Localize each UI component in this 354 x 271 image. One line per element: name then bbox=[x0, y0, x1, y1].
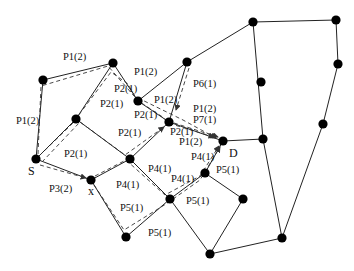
path-label: P6(1) bbox=[193, 78, 217, 90]
path-label: P4(1) bbox=[116, 179, 140, 191]
node bbox=[277, 233, 286, 242]
node bbox=[218, 136, 227, 145]
edge bbox=[210, 199, 243, 254]
path-label: P2(1) bbox=[118, 127, 142, 139]
route-path bbox=[176, 68, 189, 110]
node bbox=[318, 119, 327, 128]
path-label: P1(2) bbox=[179, 136, 203, 148]
edge bbox=[323, 64, 338, 124]
node-label: x bbox=[88, 184, 94, 198]
edge bbox=[43, 63, 113, 80]
edge bbox=[170, 199, 210, 254]
path-label: P1(2) bbox=[154, 94, 178, 106]
path-label: P1(2) bbox=[16, 115, 40, 127]
route-path bbox=[40, 165, 86, 178]
node bbox=[133, 96, 142, 105]
path-label: P1(2) bbox=[63, 51, 87, 63]
edge bbox=[263, 139, 282, 238]
edge bbox=[91, 159, 130, 180]
node bbox=[165, 194, 174, 203]
node bbox=[108, 58, 117, 67]
path-label: P2(1) bbox=[114, 83, 138, 95]
edge bbox=[210, 238, 282, 254]
path-label: P3(2) bbox=[49, 183, 73, 195]
path-label: P2(1) bbox=[134, 109, 158, 121]
node bbox=[125, 154, 134, 163]
node bbox=[256, 77, 265, 86]
path-label: P2(1) bbox=[64, 148, 88, 160]
path-label: P1(2) bbox=[134, 66, 158, 78]
node bbox=[200, 168, 209, 177]
edge bbox=[169, 62, 187, 122]
path-label: P4(1) bbox=[191, 151, 215, 163]
node bbox=[331, 15, 340, 24]
edge bbox=[253, 20, 336, 22]
node-label: S bbox=[28, 164, 35, 178]
node bbox=[71, 114, 80, 123]
edge bbox=[336, 20, 338, 64]
path-label: P4(1) bbox=[148, 163, 172, 175]
path-label: P5(1) bbox=[148, 227, 172, 239]
path-label: P7(1) bbox=[193, 114, 217, 126]
edge bbox=[282, 124, 323, 238]
node bbox=[205, 249, 214, 258]
node-label: D bbox=[229, 146, 238, 160]
edge bbox=[205, 173, 243, 199]
path-label: P2(1) bbox=[100, 98, 124, 110]
path-label: P4(1) bbox=[171, 173, 195, 185]
node bbox=[248, 17, 257, 26]
edge bbox=[187, 22, 253, 62]
node bbox=[258, 134, 267, 143]
node bbox=[238, 194, 247, 203]
path-label: P5(1) bbox=[216, 164, 240, 176]
network-diagram: P1(2)P1(2)P2(1)P2(1)P1(2)P1(2)P2(1)P2(1)… bbox=[0, 0, 354, 271]
node bbox=[38, 75, 47, 84]
node bbox=[182, 57, 191, 66]
diagram-canvas: P1(2)P1(2)P2(1)P2(1)P1(2)P1(2)P2(1)P2(1)… bbox=[0, 0, 354, 271]
node bbox=[31, 154, 40, 163]
edge bbox=[76, 63, 113, 119]
node bbox=[121, 232, 130, 241]
edge bbox=[223, 139, 263, 141]
node bbox=[333, 59, 342, 68]
path-label: P5(1) bbox=[186, 195, 210, 207]
path-label: P5(1) bbox=[120, 202, 144, 214]
route-path bbox=[42, 122, 164, 162]
